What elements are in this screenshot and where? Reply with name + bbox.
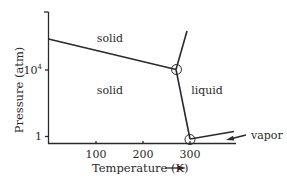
y-tick-labels: 104 1 [24, 63, 43, 143]
x-tick-label-200: 200 [133, 148, 154, 161]
x-tick-labels: 100 200 300 [86, 148, 201, 161]
region-label-solid-lower: solid [97, 84, 123, 97]
solid-liquid-boundary [176, 70, 190, 140]
x-tick-label-100: 100 [86, 148, 107, 161]
y-tick-label-1e4: 104 [24, 63, 43, 77]
phase-diagram: 104 1 100 200 300 Pressure (atm) Tempera… [0, 0, 287, 184]
region-label-vapor: vapor [250, 129, 283, 142]
x-tick-label-300: 300 [180, 148, 201, 161]
upper-solid-liquid-boundary [176, 31, 187, 70]
axes [44, 12, 236, 144]
region-label-solid-upper: solid [97, 32, 123, 45]
y-axis-label: Pressure (atm) [12, 47, 26, 134]
liquid-vapor-boundary [190, 132, 234, 140]
vapor-pointer-arrow-icon [226, 135, 246, 141]
y-tick-label-1: 1 [35, 130, 42, 143]
region-label-liquid: liquid [191, 84, 223, 97]
